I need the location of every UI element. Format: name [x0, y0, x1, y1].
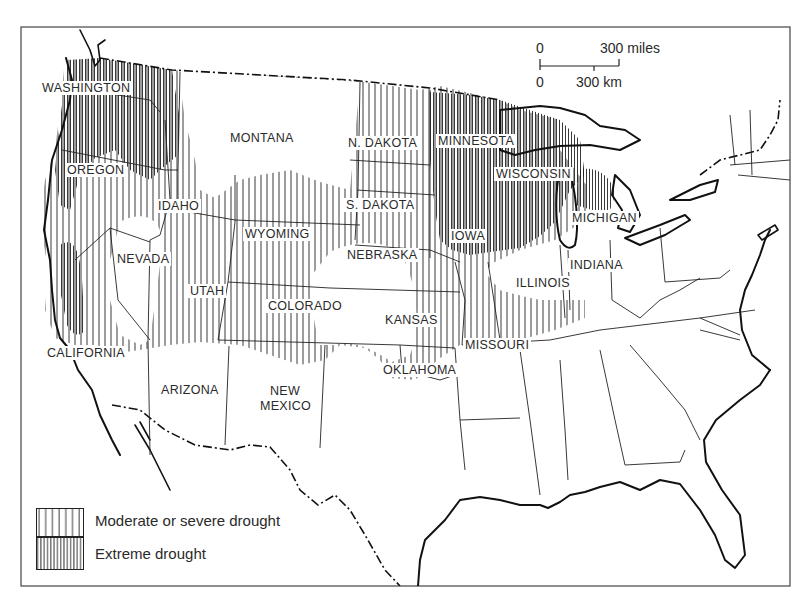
state-label-california: CALIFORNIA: [45, 346, 127, 360]
state-label-colorado: COLORADO: [266, 299, 344, 313]
state-label-wyoming: WYOMING: [243, 227, 312, 241]
state-label-illinois: ILLINOIS: [514, 276, 572, 290]
state-label-iowa: IOWA: [449, 229, 487, 243]
state-label-idaho: IDAHO: [156, 199, 201, 213]
state-label-oregon: OREGON: [65, 163, 126, 177]
state-label-utah: UTAH: [188, 284, 226, 298]
state-label-missouri: MISSOURI: [463, 338, 531, 352]
legend-swatch-extreme: [36, 537, 84, 570]
scale-miles-zero: 0: [536, 41, 544, 56]
state-label-michigan: MICHIGAN: [570, 211, 639, 225]
scale-km-value: 300 km: [576, 75, 622, 90]
scale-miles-value: 300 miles: [600, 41, 660, 56]
scale-ruler: [535, 58, 625, 72]
state-label-minnesota: MINNESOTA: [436, 134, 516, 148]
state-label-new: NEW: [268, 384, 302, 398]
state-label-s-dakota: S. DAKOTA: [344, 198, 416, 212]
state-label-indiana: INDIANA: [568, 258, 625, 272]
state-label-nevada: NEVADA: [115, 252, 171, 266]
state-label-n-dakota: N. DAKOTA: [346, 136, 419, 150]
legend-swatch-moderate: [36, 508, 84, 537]
state-label-nebraska: NEBRASKA: [345, 248, 419, 262]
state-label-montana: MONTANA: [228, 131, 296, 145]
state-label-kansas: KANSAS: [383, 313, 440, 327]
state-label-oklahoma: OKLAHOMA: [381, 363, 458, 377]
state-label-wisconsin: WISCONSIN: [494, 167, 573, 181]
legend-label-moderate: Moderate or severe drought: [95, 512, 280, 529]
legend-label-extreme: Extreme drought: [95, 545, 206, 562]
state-label-arizona: ARIZONA: [159, 383, 221, 397]
state-label-washington: WASHINGTON: [40, 81, 132, 95]
scale-km-zero: 0: [536, 75, 544, 90]
state-label-mexico: MEXICO: [258, 399, 313, 413]
